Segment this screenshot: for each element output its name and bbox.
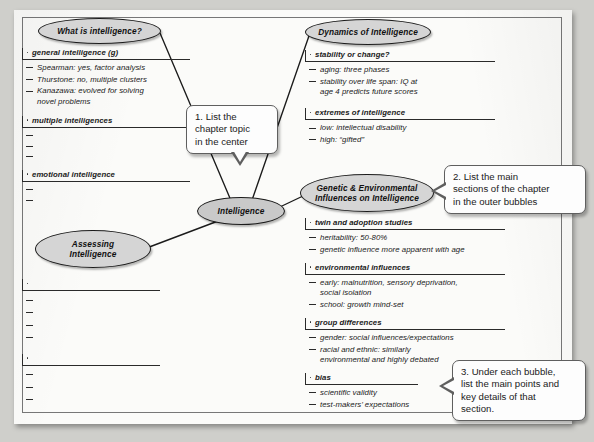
bullet-dot: [27, 119, 29, 121]
bubble-label-line2: Influences on Intelligence: [315, 193, 419, 203]
callout-line: 1. List the: [195, 111, 270, 123]
dash-icon: [309, 237, 316, 238]
list-item-blank[interactable]: [22, 382, 170, 393]
dash-icon: [309, 128, 316, 129]
list-item-blank[interactable]: [22, 370, 170, 381]
dash-icon: [309, 337, 316, 338]
callout-3[interactable]: 3. Under each bubble, list the main poin…: [452, 360, 586, 421]
screenshot-root: What is intelligence? Dynamics of Intell…: [0, 0, 594, 442]
outline-header: multiple intelligences: [22, 116, 190, 128]
list-item-blank[interactable]: [22, 320, 170, 331]
outline-group: emotional intelligence: [22, 170, 190, 204]
dash-icon: [309, 249, 316, 250]
sub-text: heritability: 50-80%: [320, 233, 387, 242]
callout-2[interactable]: 2. List the main sections of the chapter…: [444, 165, 586, 214]
callout-line: 3. Under each bubble,: [461, 366, 578, 378]
bubble-label: Dynamics of Intelligence: [318, 27, 418, 37]
outline-group: stability or change? aging: three phases…: [305, 50, 495, 97]
callout-1[interactable]: 1. List the chapter topic in the center: [186, 105, 278, 154]
sub-text-continued: social isolation: [320, 288, 505, 298]
sub-text: test-makers’ expectations: [320, 400, 409, 409]
bullet-dot: [27, 357, 29, 359]
outline-header-text: bias: [315, 373, 331, 382]
dash-icon: [26, 91, 33, 92]
list-item: school: growth mind-set: [305, 300, 505, 310]
list-item: early: malnutrition, sensory deprivation…: [305, 278, 505, 299]
dash-icon: [309, 69, 316, 70]
outline-header: stability or change?: [305, 50, 495, 62]
outline-sublist: [22, 184, 190, 204]
dash-icon: [26, 337, 33, 338]
outline-group: [22, 354, 170, 406]
bullet-dot: [27, 173, 29, 175]
outline-header-blank[interactable]: [22, 354, 160, 366]
list-item-blank[interactable]: [22, 184, 190, 193]
outline-header: extremes of intelligence: [305, 108, 495, 120]
bullet-dot: [310, 112, 312, 114]
list-item-blank[interactable]: [22, 195, 190, 204]
outline-group: [22, 279, 170, 344]
outline-header-text: group differences: [315, 318, 382, 327]
outline-sublist: low: intellectual disability high: “gift…: [305, 123, 495, 145]
dash-icon: [26, 200, 33, 201]
sub-text: racial and ethnic: similarly: [320, 345, 411, 354]
bubble-label-line1: Genetic & Environmental: [317, 183, 418, 193]
dash-icon: [309, 81, 316, 82]
sub-text: aging: three phases: [320, 65, 389, 74]
outline-group: general intelligence (g) Spearman: yes, …: [22, 48, 190, 107]
dash-icon: [26, 79, 33, 80]
dash-icon: [26, 135, 33, 136]
list-item-blank[interactable]: [22, 152, 190, 161]
callout-line: chapter topic: [195, 123, 270, 135]
list-item: stability over life span: IQ atage 4 pre…: [305, 77, 495, 98]
outline-header: bias: [305, 373, 418, 385]
list-item: heritability: 50-80%: [305, 233, 505, 243]
list-item-blank[interactable]: [22, 308, 170, 319]
outline-header: twin and adoption studies: [305, 218, 505, 230]
bubble-label-line1: Assessing: [72, 239, 114, 249]
outline-header-blank[interactable]: [22, 279, 160, 291]
outline-header-text: twin and adoption studies: [315, 218, 412, 227]
bullet-dot: [310, 222, 312, 224]
bubble-genetic-environmental[interactable]: Genetic & Environmental Influences on In…: [300, 174, 434, 212]
list-item: aging: three phases: [305, 65, 495, 75]
callout-line: section.: [461, 403, 578, 415]
sub-text: gender: social influences/expectations: [320, 333, 454, 342]
outline-header: group differences: [305, 318, 505, 330]
outline-assessing-intelligence: [22, 279, 170, 408]
bubble-assessing-intelligence[interactable]: Assessing Intelligence: [35, 230, 151, 268]
bubble-label: Intelligence: [218, 206, 265, 216]
bubble-what-is-intelligence[interactable]: What is intelligence?: [38, 18, 161, 44]
sub-text: early: malnutrition, sensory deprivation…: [320, 278, 458, 287]
dash-icon: [26, 189, 33, 190]
outline-group: multiple intelligences: [22, 116, 190, 161]
bubble-center-intelligence[interactable]: Intelligence: [197, 197, 285, 225]
outline-sublist: heritability: 50-80% genetic influence m…: [305, 233, 505, 255]
bubble-dynamics-of-intelligence[interactable]: Dynamics of Intelligence: [305, 19, 431, 45]
callout-line: list the main points and: [461, 378, 578, 390]
dash-icon: [26, 325, 33, 326]
sub-text: Spearman: yes, factor analysis: [37, 63, 145, 72]
dash-icon: [26, 399, 33, 400]
outline-what-is-intelligence: general intelligence (g) Spearman: yes, …: [22, 48, 190, 206]
outline-header-text: environmental influences: [315, 263, 410, 272]
outline-sublist: early: malnutrition, sensory deprivation…: [305, 278, 505, 310]
list-item-blank[interactable]: [22, 333, 170, 344]
bullet-dot: [310, 54, 312, 56]
list-item-blank[interactable]: [22, 131, 190, 140]
outline-header-text: extremes of intelligence: [315, 108, 405, 117]
outline-header-text: multiple intelligences: [32, 116, 112, 125]
list-item-blank[interactable]: [22, 295, 170, 306]
list-item-blank[interactable]: [22, 141, 190, 150]
list-item: Spearman: yes, factor analysis: [22, 63, 190, 73]
outline-group: environmental influences early: malnutri…: [305, 263, 505, 310]
list-item: Kanazawa: evolved for solvingnovel probl…: [22, 86, 190, 107]
dash-icon: [26, 374, 33, 375]
sub-text: high: “gifted”: [320, 135, 364, 144]
list-item-blank[interactable]: [22, 395, 170, 406]
outline-header-text: stability or change?: [315, 50, 390, 59]
outline-sublist: [22, 131, 190, 161]
dash-icon: [309, 392, 316, 393]
sub-text: Kanazawa: evolved for solving: [37, 86, 144, 95]
sub-text-continued: age 4 predicts future scores: [320, 87, 495, 97]
